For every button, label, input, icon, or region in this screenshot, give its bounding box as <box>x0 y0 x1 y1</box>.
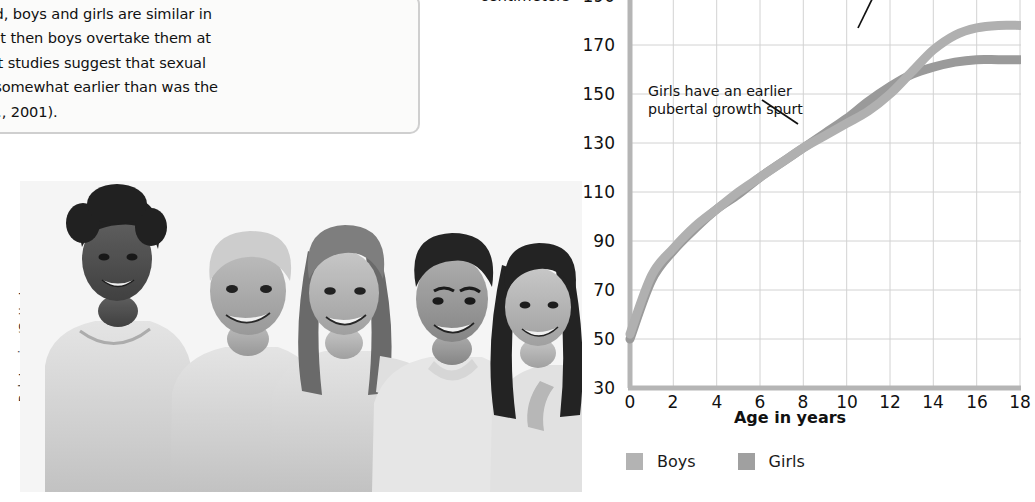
body-text-callout: ughout childhood, boys and girls are sim… <box>0 0 420 134</box>
x-tick-label: 16 <box>962 392 992 412</box>
legend-swatch-boys <box>626 453 643 470</box>
x-tick-label: 18 <box>1005 392 1035 412</box>
body-text-line: ahead briefly, but then boys overtake th… <box>0 26 396 50</box>
legend-item-girls: Girls <box>738 452 805 471</box>
body-text-line: ughout childhood, boys and girls are sim… <box>0 2 396 26</box>
annotation-girls-spurt: Girls have an earlier pubertal growth sp… <box>648 83 803 118</box>
series-line-boys <box>630 25 1020 334</box>
legend-item-boys: Boys <box>626 452 696 471</box>
body-text-line: er, 1978.) Recent studies suggest that s… <box>0 51 396 75</box>
line-boys <box>630 25 1020 334</box>
growth-chart: centimeters 190 170 150 130 110 90 70 50… <box>430 0 1021 502</box>
body-text-line: an-Giddens et al., 2001). <box>0 100 396 124</box>
annotation-leader-boys <box>858 0 879 28</box>
body-text-line: s are beginning somewhat earlier than wa… <box>0 75 396 99</box>
chart-legend: Boys Girls <box>626 452 805 471</box>
legend-label-girls: Girls <box>769 452 805 471</box>
legend-swatch-girls <box>738 453 755 470</box>
x-axis-title: Age in years <box>620 408 960 427</box>
legend-label-boys: Boys <box>657 452 696 471</box>
